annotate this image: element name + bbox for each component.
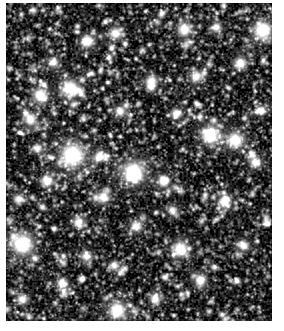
star-field-canvas: [6, 3, 272, 321]
star-field-frame: [6, 3, 272, 321]
astronomy-image-figure: Dense field of stars on black sky, monoc…: [0, 0, 284, 331]
